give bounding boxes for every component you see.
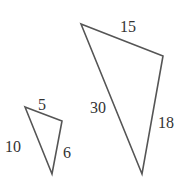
large-triangle-right-side-label: 18: [158, 114, 174, 131]
similar-triangles-diagram: 5 10 6 15 30 18: [0, 0, 195, 188]
small-triangle-right-side-label: 6: [63, 144, 71, 161]
small-triangle-top-side-label: 5: [38, 96, 46, 113]
small-triangle: [25, 107, 62, 174]
large-triangle-top-side-label: 15: [120, 18, 136, 35]
large-triangle-left-side-label: 30: [90, 99, 106, 116]
small-triangle-left-side-label: 10: [5, 138, 21, 155]
